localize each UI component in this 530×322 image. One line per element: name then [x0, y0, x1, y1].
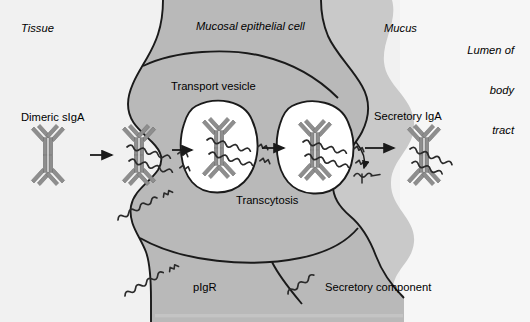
label-transcytosis: Transcytosis [236, 194, 298, 207]
legend-label-secretory-component: Secretory component [325, 281, 431, 294]
label-lumen-line2: body [420, 84, 514, 97]
label-lumen-line1: Lumen of [420, 44, 514, 57]
label-mucus: Mucus [384, 22, 417, 35]
figure-bottom-rule [155, 314, 403, 317]
label-mucosal-epithelial-cell: Mucosal epithelial cell [196, 20, 305, 33]
transport-vesicle-1 [181, 101, 258, 193]
legend-label-pigr: pIgR [193, 281, 217, 294]
label-tissue: Tissue [21, 22, 54, 35]
label-secretory-iga: Secretory IgA [374, 110, 442, 123]
label-transport-vesicle: Transport vesicle [171, 80, 256, 93]
label-lumen-line3: tract [420, 124, 514, 137]
label-dimeric-siga: Dimeric sIgA [21, 111, 84, 124]
figure-canvas: Tissue Mucosal epithelial cell Mucus Lum… [0, 0, 530, 322]
transport-vesicle-2 [277, 101, 354, 193]
label-lumen-of-body-tract: Lumen of body tract [420, 18, 514, 163]
